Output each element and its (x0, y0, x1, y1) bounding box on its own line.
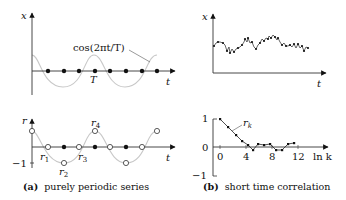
panel-a-top-chart: x t T cos(2πt/T) (21, 10, 175, 95)
panel-a-bottom-chart: r t −1 r1 r2 r3 r4 (12, 115, 175, 179)
xtick-8-label: 8 (269, 151, 275, 162)
caption-b: (b) short time correlation (203, 181, 330, 192)
rk-dots (219, 118, 295, 151)
panel-b-bottom-chart: rk 1 0 −1 0 4 8 12 ln k (192, 113, 333, 181)
figure: x t T cos(2πt/T) r t −1 r1 r2 r3 r4 (0, 0, 346, 200)
caption-a: (a) purely periodic series (23, 181, 149, 192)
r3-label: r3 (78, 151, 87, 164)
r2-label: r2 (59, 166, 68, 179)
ytick-neg1-label: −1 (12, 158, 27, 169)
x-axis-label: t (166, 152, 171, 163)
r4-label: r4 (91, 117, 101, 130)
xtick-0-label: 0 (217, 151, 223, 162)
rk-label: rk (243, 117, 252, 130)
x-axis-label: t (166, 76, 171, 87)
ytick-0-label: 0 (202, 142, 208, 153)
curve-label: cos(2πt/T) (73, 42, 125, 53)
panel-b-top-chart: x t (202, 11, 326, 89)
xtick-12-label: 12 (292, 151, 305, 162)
ytick-1-label: 1 (202, 113, 208, 124)
x-axis-label: t (317, 78, 322, 89)
y-axis-label: x (21, 10, 27, 21)
rk-series (220, 119, 294, 150)
y-axis-label: x (202, 11, 208, 22)
x-axis-label: ln k (313, 151, 333, 162)
y-axis-label: r (22, 115, 28, 126)
rk-label-leader (232, 125, 242, 131)
ytick-neg1-label: −1 (192, 170, 207, 181)
curve-label-leader (129, 50, 150, 62)
period-label: T (90, 74, 98, 85)
xtick-4-label: 4 (243, 151, 249, 162)
